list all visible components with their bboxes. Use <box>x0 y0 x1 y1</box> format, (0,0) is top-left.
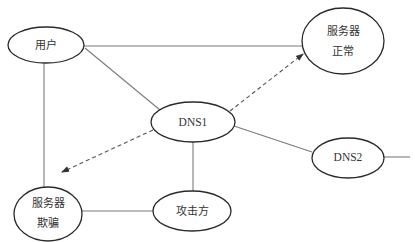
node-server-spoof-label-line2: 欺骗 <box>37 216 59 230</box>
node-attacker-label: 攻击方 <box>176 204 209 218</box>
node-dns2-label: DNS2 <box>334 151 363 163</box>
node-user: 用户 <box>8 27 84 63</box>
node-user-label: 用户 <box>35 38 57 52</box>
node-attacker: 攻击方 <box>153 191 231 231</box>
node-server-normal-ellipse <box>302 8 384 74</box>
node-server-spoof: 服务器 欺骗 <box>14 187 82 241</box>
edge-dns1-dns2 <box>234 126 312 152</box>
edge-dns1-server-spoof-arrow <box>62 130 153 172</box>
node-server-spoof-ellipse <box>14 187 82 241</box>
node-dns1-label: DNS1 <box>179 116 208 128</box>
node-server-normal-label-line1: 服务器 <box>327 25 360 38</box>
node-server-normal: 服务器 正常 <box>302 8 384 74</box>
node-server-spoof-label-line1: 服务器 <box>32 197 65 210</box>
node-dns1: DNS1 <box>151 102 235 142</box>
dns-spoofing-diagram: 用户 服务器 正常 DNS1 DNS2 服务器 欺骗 攻击方 <box>0 0 415 242</box>
edge-dns1-server-normal-arrow <box>230 54 303 111</box>
node-dns2: DNS2 <box>312 138 384 178</box>
node-server-normal-label-line2: 正常 <box>332 45 354 58</box>
edge-user-dns1 <box>85 48 160 110</box>
